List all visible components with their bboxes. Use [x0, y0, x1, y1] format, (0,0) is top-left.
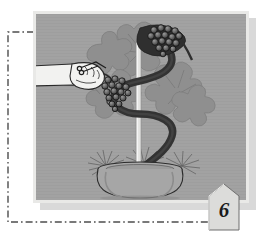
vine-pruning-illustration: [36, 14, 246, 200]
support-stake: [136, 42, 141, 170]
figure-number: 6: [208, 197, 240, 223]
illustration-panel: [36, 14, 246, 200]
figure-number-tag: 6: [208, 183, 240, 231]
terracotta-pot: [97, 162, 183, 200]
figure-container: 6: [0, 0, 277, 237]
